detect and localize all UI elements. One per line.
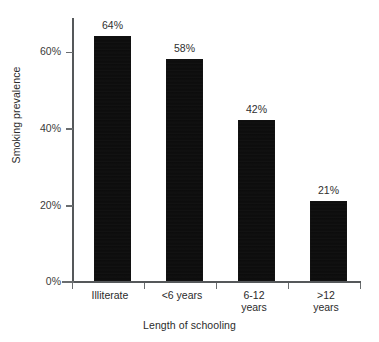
bar-under-6-years [166,59,203,282]
y-tick-label-0: 0% [1,276,61,287]
x-category-label-illiterate: Illiterate [76,290,144,302]
x-tick-mark-1 [144,283,145,289]
bar-value-label-under-6-years: 58% [154,43,215,54]
x-tick-mark-2 [216,283,217,289]
bar-value-label-over-12-years: 21% [298,185,359,196]
x-axis-title: Length of schooling [0,319,379,331]
y-tick-mark-40 [66,128,73,129]
bar-6-to-12-years [238,120,275,281]
x-tick-mark-3 [288,283,289,289]
x-category-label-6-to-12-years: 6-12 years [220,290,288,313]
bar-chart-figure: Smoking prevalence 60% 40% 20% 0% 64% 58… [0,0,379,342]
x-tick-mark-4 [360,283,361,289]
y-tick-mark-60 [66,52,73,53]
y-tick-label-60: 60% [1,46,61,57]
bar-value-label-6-to-12-years: 42% [226,104,287,115]
bar-over-12-years [310,201,347,282]
y-axis-line [72,18,74,283]
bar-illiterate [94,36,131,282]
x-category-label-under-6-years: <6 years [148,290,216,302]
bar-value-label-illiterate: 64% [82,20,143,31]
x-category-label-over-12-years: >12 years [292,290,360,313]
y-tick-mark-20 [66,205,73,206]
x-tick-mark-0 [72,283,73,289]
y-axis-title: Smoking prevalence [10,45,22,185]
y-tick-label-20: 20% [1,200,61,211]
y-tick-label-40: 40% [1,123,61,134]
